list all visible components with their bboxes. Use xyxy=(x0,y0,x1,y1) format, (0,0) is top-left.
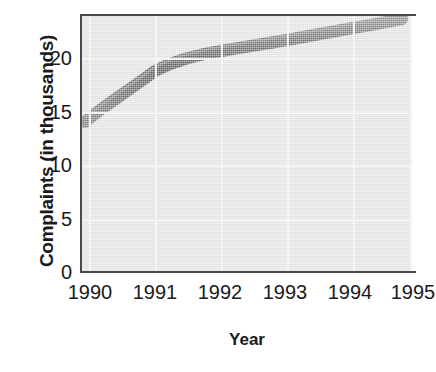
y-tick-label: 0 xyxy=(42,262,78,282)
x-axis-title: Year xyxy=(82,330,412,350)
axis-spine-bottom xyxy=(80,271,416,273)
gridline-vertical xyxy=(410,15,412,272)
axis-spine-left xyxy=(80,15,82,273)
gridline-horizontal xyxy=(82,58,412,60)
plot-area xyxy=(82,15,412,272)
x-tick-label: 1994 xyxy=(328,281,373,303)
data-series-complaints xyxy=(82,15,412,272)
x-axis-tick-labels: 1990 1991 1992 1993 1994 1995 xyxy=(0,281,436,307)
gridline-horizontal xyxy=(82,219,412,221)
y-tick-label: 20 xyxy=(42,48,78,68)
x-tick-label: 1995 xyxy=(391,281,436,303)
y-tick-label: 15 xyxy=(42,102,78,122)
y-tick-label: 10 xyxy=(42,155,78,175)
chart-figure: Complaints (in thousands) 0 5 10 15 20 xyxy=(0,0,436,372)
axis-spine-top xyxy=(80,14,416,16)
gridline-horizontal xyxy=(82,112,412,114)
gridline-horizontal xyxy=(82,165,412,167)
x-tick-label: 1991 xyxy=(133,281,178,303)
x-tick-label: 1993 xyxy=(263,281,308,303)
gridline-vertical xyxy=(221,15,223,272)
gridline-vertical xyxy=(353,15,355,272)
x-tick-label: 1992 xyxy=(198,281,243,303)
y-tick-label: 5 xyxy=(42,209,78,229)
gridline-vertical xyxy=(287,15,289,272)
gridline-vertical xyxy=(89,15,91,272)
gridline-vertical xyxy=(155,15,157,272)
y-axis-tick-labels: 0 5 10 15 20 xyxy=(42,0,78,372)
x-tick-label: 1990 xyxy=(68,281,113,303)
